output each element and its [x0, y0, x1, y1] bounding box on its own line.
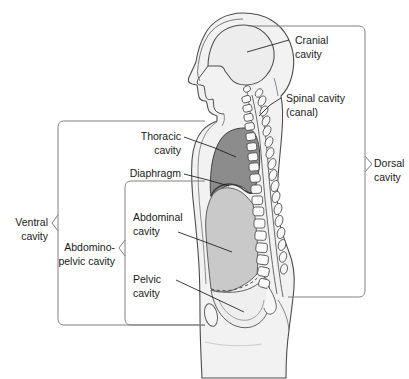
label-spinal-cavity-line1: Spinal cavity — [286, 92, 346, 104]
abdominopelvic-bracket-pointer — [119, 240, 125, 256]
ventral-bracket-pointer — [52, 215, 58, 231]
label-dorsal-cavity-line2: cavity — [374, 171, 402, 183]
body-silhouette-group — [188, 13, 294, 378]
abdominal-cavity-shape — [206, 188, 258, 292]
label-abdominal-cavity-line1: Abdominal — [133, 211, 183, 223]
label-abdominopelvic-cavity-line1: Abdomino- — [64, 241, 115, 253]
label-ventral-cavity-line1: Ventral — [15, 216, 48, 228]
label-pelvic-cavity-line1: Pelvic — [133, 273, 161, 285]
label-abdominopelvic-cavity-line2: pelvic cavity — [58, 255, 115, 267]
label-thoracic-cavity-line2: cavity — [154, 144, 182, 156]
label-abdominal-cavity-line2: cavity — [133, 225, 161, 237]
dorsal-bracket-pointer — [365, 156, 372, 172]
label-thoracic-cavity-line1: Thoracic — [141, 130, 181, 142]
body-cavities-diagram: Cranial cavity Spinal cavity (canal) Dor… — [0, 0, 409, 379]
label-diaphragm: Diaphragm — [130, 167, 182, 179]
label-ventral-cavity-line2: cavity — [21, 230, 49, 242]
label-cranial-cavity-line1: Cranial — [295, 34, 328, 46]
label-spinal-cavity-line2: (canal) — [286, 106, 318, 118]
diagram-canvas: Cranial cavity Spinal cavity (canal) Dor… — [0, 0, 409, 379]
abdominopelvic-cavity-bracket — [119, 181, 205, 325]
label-dorsal-cavity-line1: Dorsal — [374, 157, 404, 169]
ventral-cavity-bracket — [52, 121, 205, 325]
label-cranial-cavity-line2: cavity — [295, 48, 323, 60]
label-pelvic-cavity-line2: cavity — [133, 287, 161, 299]
